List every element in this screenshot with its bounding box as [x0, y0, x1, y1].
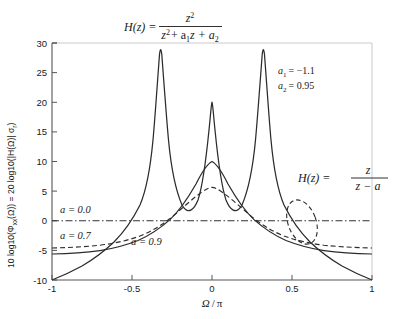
curve-label-a00: a = 0.0 [60, 204, 91, 215]
y-tick-label: -10 [33, 275, 47, 286]
y-tick-label: 25 [36, 67, 47, 78]
y-axis-label: 10 log10(Φxx(Ω)) = 20 log10(|H(Ω)| σr) [6, 123, 18, 268]
svg-text:z − a: z − a [355, 179, 381, 193]
figure-container: 30 25 20 15 10 5 0 -5 -10 -1 -0.5 0 0.5 … [0, 0, 399, 319]
x-tick-label: 0 [209, 283, 214, 294]
y-tick-label: 0 [42, 215, 47, 226]
svg-text:Ω/π: Ω/π [202, 297, 223, 309]
curve-label-a07: a = 0.7 [60, 230, 91, 241]
equation-top-den-a-exp: 2 [166, 28, 170, 37]
curve-label-a09: a = 0.9 [131, 236, 162, 247]
equation-top-lhs: H(z) = [123, 20, 156, 34]
y-tick-label: 15 [36, 126, 47, 137]
param-a1-sub: 1 [283, 71, 287, 79]
x-tick-label: -0.5 [124, 283, 140, 294]
y-axis-label-part1: 10 log10(Φ [6, 225, 16, 268]
x-tick-label: 0.5 [285, 283, 298, 294]
y-tick-label: -5 [39, 245, 47, 256]
equation-right-denominator: z − a [355, 179, 381, 193]
x-axis-label: Ω/π [202, 297, 223, 309]
equation-right-lhs: H(z) = [297, 171, 330, 185]
y-tick-label: 20 [36, 97, 47, 108]
x-axis-label-pi: π [217, 297, 223, 309]
y-tick-label: 5 [42, 186, 47, 197]
figure-background [0, 0, 399, 319]
param-a2-sub: 2 [283, 86, 287, 94]
y-axis-label-part2: (Ω)) = 20 log10(|H(Ω)| σ [6, 127, 16, 219]
svg-text:z: z [365, 163, 371, 177]
equation-top-numerator-exp: 2 [190, 11, 194, 20]
svg-text:H(z) =: H(z) = [297, 171, 330, 185]
param-a1-value: = −1.1 [289, 65, 315, 76]
y-axis-label-part3: ) [6, 123, 16, 126]
svg-text:10 log10(Φxx(Ω)) = 20 log10(|H: 10 log10(Φxx(Ω)) = 20 log10(|H(Ω)| σr) [6, 123, 18, 268]
x-tick-label: -1 [48, 283, 56, 294]
x-axis-label-omega: Ω [202, 297, 210, 309]
param-a2-value: = 0.95 [289, 80, 315, 91]
svg-text:H(z) =: H(z) = [123, 20, 156, 34]
chart-svg: 30 25 20 15 10 5 0 -5 -10 -1 -0.5 0 0.5 … [0, 0, 399, 319]
equation-top-den-b: + a [171, 28, 187, 42]
y-tick-label: 10 [36, 156, 47, 167]
equation-top-den-c-sub: 2 [215, 35, 219, 44]
y-tick-label: 30 [36, 38, 47, 49]
equation-right-numerator: z [365, 163, 371, 177]
equation-top-den-c: z + a [189, 28, 215, 42]
x-tick-label: 1 [369, 283, 374, 294]
